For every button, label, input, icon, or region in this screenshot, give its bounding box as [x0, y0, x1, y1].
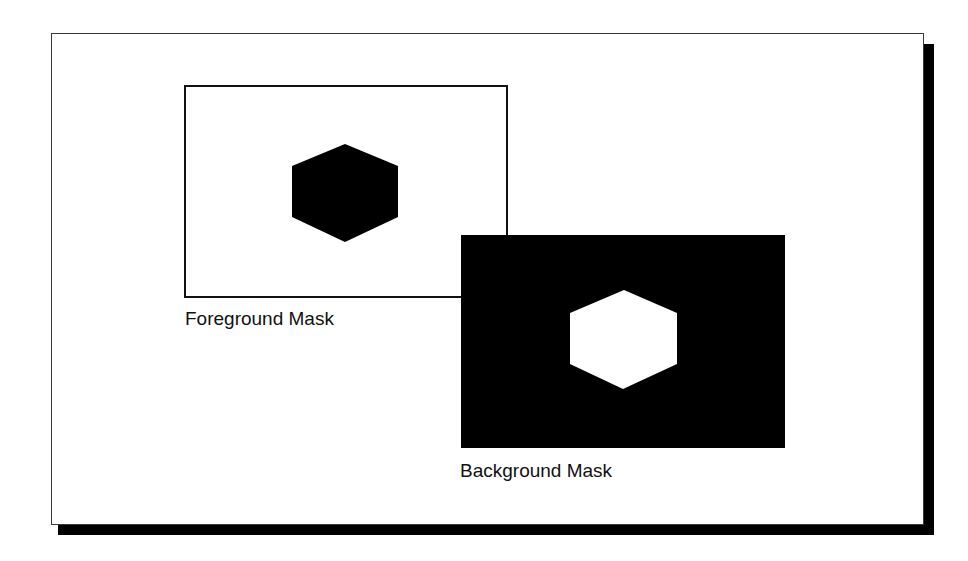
foreground-mask-label: Foreground Mask — [185, 308, 334, 330]
frame-shadow-right — [924, 44, 934, 535]
background-mask-label: Background Mask — [460, 460, 612, 482]
foreground-mask-panel — [184, 85, 508, 298]
white-hexagon-icon — [461, 235, 785, 448]
frame-shadow-bottom — [58, 525, 934, 535]
background-mask-panel — [461, 235, 785, 448]
